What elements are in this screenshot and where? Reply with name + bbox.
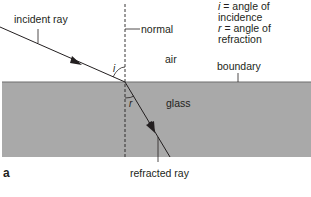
angle-i-label: i — [113, 63, 115, 74]
legend-text-r: = angle of refraction — [218, 22, 271, 45]
glass-block — [2, 82, 311, 157]
boundary-label: boundary — [217, 60, 261, 72]
incident-ray-label: incident ray — [14, 13, 68, 25]
incident-ray — [0, 27, 125, 82]
figure-label: a — [3, 166, 10, 180]
air-label: air — [165, 53, 177, 65]
angle-r-label: r — [129, 98, 132, 109]
legend-item-refraction: r = angle of refraction — [218, 23, 311, 45]
refraction-diagram: i = angle of incidence r = angle of refr… — [0, 0, 311, 197]
glass-label: glass — [166, 97, 191, 109]
refracted-ray-label: refracted ray — [130, 167, 189, 179]
incident-arrow-icon — [70, 56, 82, 65]
legend-text-i: = angle of incidence — [218, 0, 270, 23]
legend-item-incidence: i = angle of incidence — [218, 1, 311, 23]
normal-label: normal — [141, 23, 173, 35]
legend: i = angle of incidence r = angle of refr… — [218, 1, 311, 45]
